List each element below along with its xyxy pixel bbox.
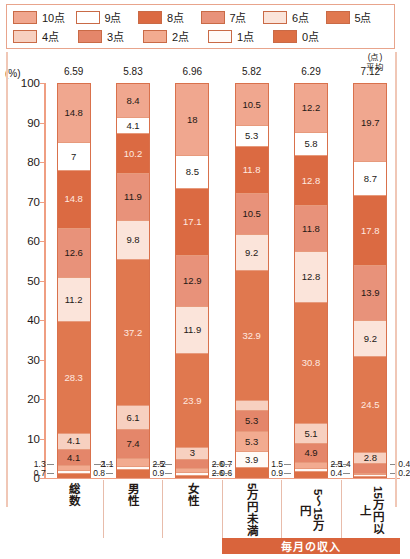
- category-axis: 総数男性女性5万円未満5〜15万円15万円以上: [44, 480, 400, 538]
- bar-segment-value: 0.9: [153, 468, 165, 478]
- legend-swatch-icon: [143, 30, 167, 43]
- bar-mean-value: 5.82: [222, 66, 281, 77]
- bar-segment-value: 23.9: [183, 396, 202, 406]
- bar-segment-3点: 4.1: [58, 449, 90, 465]
- bar-column-15万円以上: 7.1219.78.717.813.99.224.52.82.50.40.40.…: [341, 83, 400, 478]
- stacked-bar[interactable]: 19.78.717.813.99.224.52.8: [353, 83, 387, 478]
- legend-label: 6点: [292, 9, 309, 25]
- bar-segment-value: 13.9: [361, 288, 380, 298]
- bar-segment-9点: 7: [58, 142, 90, 170]
- legend-label: 8点: [167, 9, 184, 25]
- bar-segment-5点: 30.8: [295, 302, 327, 423]
- bar-segment-8点: 17.8: [354, 195, 386, 265]
- legend-item-1点: 1点: [208, 28, 273, 44]
- bar-segment-value: 0.9: [271, 468, 283, 478]
- bar-segment-value: 2.8: [364, 453, 377, 463]
- y-axis-tick-label: 50: [6, 275, 40, 287]
- bar-segment-value: 10.5: [242, 209, 261, 219]
- legend-label: 3点: [107, 28, 124, 44]
- bar-segment-value: 17.1: [183, 217, 202, 227]
- bar-segment-8点: 14.8: [58, 170, 90, 228]
- bar-segment-value: 37.2: [124, 328, 143, 338]
- bar-segment-value: 7: [71, 152, 76, 162]
- category-label: 男性: [126, 483, 139, 507]
- bar-segment-value: 5.3: [245, 437, 258, 447]
- bar-segment-value: 6.1: [126, 413, 139, 423]
- stacked-bar[interactable]: 14.8714.812.611.228.34.14.1: [57, 83, 91, 478]
- bar-segment-9点: 5.3: [236, 125, 268, 146]
- category-cell: 総数: [44, 480, 103, 538]
- bar-segment-value: 0.4: [331, 468, 343, 478]
- bar-segment-9点: 4.1: [117, 117, 149, 133]
- bar-segment-6点: 11.2: [58, 277, 90, 321]
- callout-leader-line: [106, 473, 113, 474]
- legend-label: 0点: [302, 28, 319, 44]
- mean-unit-label: (点): [351, 52, 399, 62]
- bar-segment-value: 12.9: [183, 276, 202, 286]
- bar-segment-6点: 12.8: [295, 251, 327, 301]
- frame-left-border: [6, 52, 8, 507]
- bar-segment-value: 0.2: [398, 468, 410, 478]
- stacked-bar[interactable]: 8.44.110.211.99.837.26.17.4: [116, 83, 150, 478]
- legend-swatch-icon: [208, 30, 232, 43]
- category-label: 総数: [67, 483, 80, 507]
- category-cell: 5〜15万円: [281, 480, 341, 538]
- bar-segment-5点: 28.3: [58, 321, 90, 432]
- category-cell: 男性: [103, 480, 163, 538]
- bar-segment-1点: 3.9: [236, 451, 268, 466]
- category-cell: 女性: [162, 480, 222, 538]
- bar-segment-5点: 32.9: [236, 270, 268, 399]
- category-label: 15万円以上: [358, 483, 384, 538]
- bar-segment-callout-2点: 0.9: [153, 468, 174, 478]
- category-cell: 15万円以上: [341, 480, 401, 538]
- bar-segment-4点: 5.1: [295, 423, 327, 443]
- legend-item-9点: 9点: [76, 9, 139, 25]
- bar-segment-3点: 7.4: [117, 429, 149, 458]
- category-label: 5万円未満: [245, 483, 258, 537]
- bar-segment-value: 18: [187, 115, 198, 125]
- bar-mean-value: 6.59: [44, 66, 103, 77]
- callout-leader-line: [165, 464, 172, 465]
- bar-segment-4点: 4.1: [58, 433, 90, 449]
- bar-segment-value: 10.5: [242, 100, 261, 110]
- legend-item-0点: 0点: [273, 28, 338, 44]
- y-axis-tick-label: 90: [6, 117, 40, 129]
- bar-mean-value: 5.83: [103, 66, 162, 77]
- bar-segment-callout-1点: 0.8: [93, 468, 114, 478]
- legend-label: 9点: [105, 9, 122, 25]
- bar-segment-value: 8.4: [126, 96, 139, 106]
- bar-segment-value: 9.2: [364, 334, 377, 344]
- bar-segment-callout-1点: 0.7: [34, 468, 55, 478]
- frame-right-border: [395, 52, 397, 507]
- callout-leader-line: [284, 464, 291, 465]
- bar-segment-value: 12.8: [302, 176, 321, 186]
- stacked-bar[interactable]: 12.25.812.811.812.830.85.14.9: [294, 83, 328, 478]
- stacked-bar[interactable]: 188.517.112.911.923.93: [175, 83, 209, 478]
- callout-leader-line: [225, 473, 232, 474]
- bar-segment-value: 2.6: [212, 468, 224, 478]
- legend-swatch-icon: [13, 30, 37, 43]
- bar-segment-5点: 24.5: [354, 356, 386, 452]
- bar-segment-7点: 12.6: [58, 228, 90, 278]
- bar-segment-6点: 9.2: [236, 234, 268, 270]
- legend-label: 4点: [42, 28, 59, 44]
- bar-segment-value: 11.2: [65, 295, 83, 305]
- bar-segment-7点: 11.9: [117, 173, 149, 220]
- stacked-bar[interactable]: 10.55.311.810.59.232.95.35.33.9: [235, 83, 269, 478]
- legend-label: 10点: [42, 9, 65, 25]
- bar-column-女性: 6.96188.517.112.911.923.932.50.90.70.6: [163, 83, 222, 478]
- legend-swatch-icon: [201, 11, 225, 24]
- bar-segment-6点: 9.2: [354, 320, 386, 356]
- bar-segment-value: 10.2: [124, 149, 143, 159]
- bar-segment-10点: 18: [176, 84, 208, 155]
- bar-segment-value: 19.7: [361, 118, 380, 128]
- bar-mean-value: 7.12: [341, 66, 400, 77]
- bar-column-5〜15万円: 6.2912.25.812.811.812.830.85.14.91.50.91…: [281, 83, 340, 478]
- bar-segment-3点: [176, 459, 208, 469]
- bar-segment-value: 24.5: [361, 400, 380, 410]
- bar-segment-value: 12.6: [64, 248, 83, 258]
- bar-segment-value: 5.3: [245, 416, 258, 426]
- bar-segment-callout-0点: 2.6: [212, 468, 233, 478]
- y-axis-tick-label: 60: [6, 235, 40, 247]
- bar-segment-value: 14.8: [64, 108, 83, 118]
